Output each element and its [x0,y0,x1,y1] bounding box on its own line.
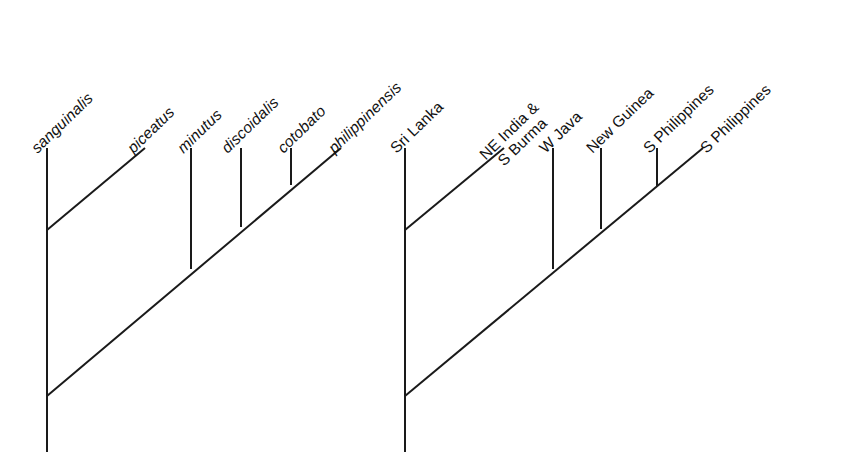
cladogram-figure: sanguinalis piceatus minutus discoidalis… [0,0,855,472]
left-tree [47,148,341,452]
right-tree [405,148,703,452]
cladogram-canvas [0,0,855,472]
left-upper-branch [47,148,145,230]
left-backbone [47,148,341,396]
